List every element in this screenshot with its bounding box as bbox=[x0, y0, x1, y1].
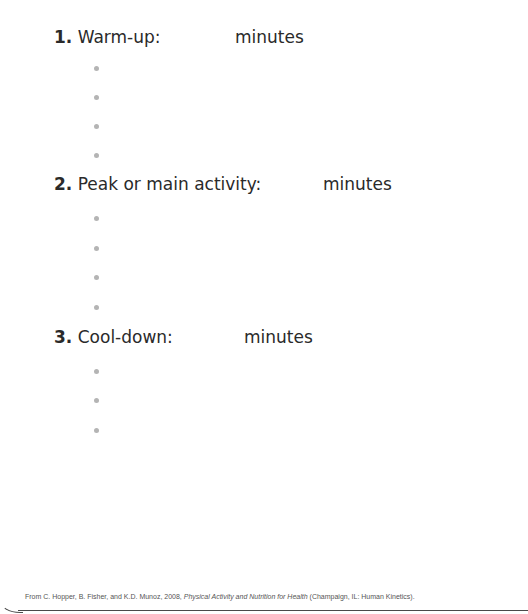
minutes-label: minutes bbox=[244, 327, 313, 347]
bullet-icon bbox=[94, 124, 99, 129]
section-number: 1. bbox=[54, 27, 72, 47]
bullet-icon bbox=[94, 66, 99, 71]
section-label: Cool-down: bbox=[78, 327, 173, 347]
bullet-icon bbox=[94, 216, 99, 221]
bullet-icon bbox=[94, 428, 99, 433]
section-number: 2. bbox=[54, 174, 72, 194]
section-cool-down-heading: 3. Cool-down: minutes bbox=[54, 327, 173, 347]
minutes-label: minutes bbox=[323, 174, 392, 194]
bullet-icon bbox=[94, 398, 99, 403]
bullet-icon bbox=[94, 305, 99, 310]
bullet-icon bbox=[94, 153, 99, 158]
bottom-rule bbox=[18, 610, 528, 611]
section-label: Warm-up: bbox=[78, 27, 161, 47]
citation-title: Physical Activity and Nutrition for Heal… bbox=[184, 593, 308, 600]
citation-prefix: From C. Hopper, B. Fisher, and K.D. Muno… bbox=[25, 593, 184, 600]
bullet-icon bbox=[94, 246, 99, 251]
citation-suffix: (Champaign, IL: Human Kinetics). bbox=[308, 593, 415, 600]
bullet-icon bbox=[94, 275, 99, 280]
bullet-icon bbox=[94, 95, 99, 100]
section-label: Peak or main activity: bbox=[78, 174, 262, 194]
section-warm-up-heading: 1. Warm-up: minutes bbox=[54, 27, 161, 47]
bullet-icon bbox=[94, 369, 99, 374]
minutes-label: minutes bbox=[235, 27, 304, 47]
section-number: 3. bbox=[54, 327, 72, 347]
section-peak-heading: 2. Peak or main activity: minutes bbox=[54, 174, 261, 194]
citation: From C. Hopper, B. Fisher, and K.D. Muno… bbox=[25, 593, 415, 600]
